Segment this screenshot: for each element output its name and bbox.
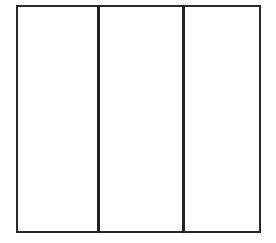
diagram-canvas — [0, 0, 276, 243]
column-panel-middle — [101, 7, 183, 231]
column-panel-right — [186, 7, 259, 231]
column-divider-right — [182, 5, 185, 233]
column-panel-left — [18, 7, 98, 231]
column-divider-left — [97, 5, 100, 233]
